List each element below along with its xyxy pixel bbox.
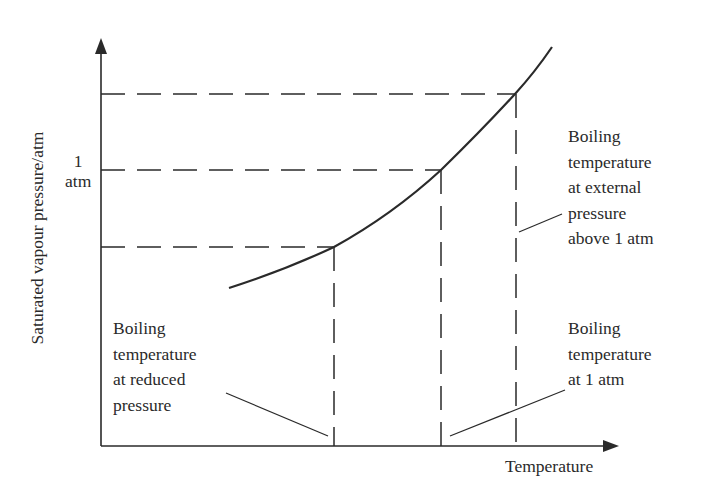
leader-reduced [226, 393, 328, 436]
y-tick-value: 1 [65, 151, 91, 171]
y-tick-1-atm: 1 atm [65, 151, 91, 191]
annotation-1-atm: Boiling temperature at 1 atm [568, 316, 652, 393]
annotation-line: at external [568, 175, 654, 201]
annotation-line: at reduced [113, 367, 197, 393]
annotation-line: Boiling [113, 316, 197, 342]
y-axis-arrow-icon [95, 38, 107, 54]
y-axis-label: Saturated vapour pressure/atm [27, 132, 48, 345]
vapour-pressure-curve [229, 47, 552, 288]
x-axis-arrow-icon [603, 440, 619, 452]
annotation-line: above 1 atm [568, 226, 654, 252]
annotation-reduced-pressure: Boiling temperature at reduced pressure [113, 316, 197, 418]
x-axis-label: Temperature [505, 454, 593, 480]
leader-above [519, 214, 562, 232]
annotation-line: at 1 atm [568, 367, 652, 393]
y-tick-unit: atm [65, 171, 91, 191]
annotation-line: temperature [568, 342, 652, 368]
annotation-line: pressure [568, 201, 654, 227]
annotation-above-1-atm: Boiling temperature at external pressure… [568, 124, 654, 252]
annotation-line: temperature [568, 150, 654, 176]
annotation-line: temperature [113, 342, 197, 368]
leader-1-atm [450, 390, 565, 436]
annotation-line: Boiling [568, 124, 654, 150]
annotation-line: pressure [113, 393, 197, 419]
annotation-line: Boiling [568, 316, 652, 342]
